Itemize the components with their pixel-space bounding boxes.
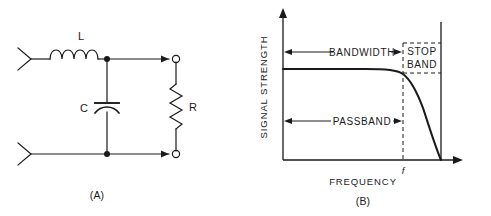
input-top-connector-icon xyxy=(18,48,31,70)
output-top-arrow-icon xyxy=(161,56,169,63)
node-dot-top xyxy=(104,56,110,62)
response-curve xyxy=(283,69,441,160)
inductor-label: L xyxy=(78,30,84,42)
schematic-svg: L C R (A) xyxy=(0,0,245,216)
figure-root: L C R (A) xyxy=(0,0,491,216)
x-axis-title: FREQUENCY xyxy=(329,176,397,187)
inductor-icon xyxy=(50,50,98,59)
panel-b-caption: (B) xyxy=(356,195,371,207)
output-bottom-arrow-icon xyxy=(161,151,169,158)
stopband-label-line2: BAND xyxy=(407,59,437,70)
resistor-icon xyxy=(170,84,182,129)
node-dot-bottom xyxy=(104,151,110,157)
x-axis xyxy=(283,156,463,164)
cutoff-tick-label: f xyxy=(402,165,406,176)
stopband-label-line1: STOP xyxy=(407,46,436,57)
y-axis xyxy=(279,8,287,160)
panel-a-schematic: L C R (A) xyxy=(0,0,245,216)
y-axis-title: SIGNAL STRENGTH xyxy=(258,36,269,139)
passband-label: PASSBAND xyxy=(333,116,392,127)
panel-a-caption: (A) xyxy=(90,189,105,201)
resistor-label: R xyxy=(189,101,197,113)
panel-b-response-plot: BANDWIDTH PASSBAND STOP BAND f SIGNAL ST… xyxy=(245,0,491,216)
capacitor-label: C xyxy=(80,102,88,114)
bandwidth-label: BANDWIDTH xyxy=(329,47,395,58)
input-bottom-connector-icon xyxy=(18,143,31,165)
response-plot-svg: BANDWIDTH PASSBAND STOP BAND f SIGNAL ST… xyxy=(245,0,491,216)
